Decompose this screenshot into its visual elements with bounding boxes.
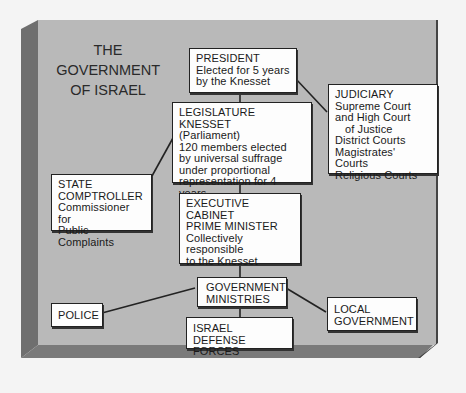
- president-box: PRESIDENT Elected for 5 years by the Kne…: [189, 48, 297, 93]
- legislature-box: LEGISLATURE KNESSET (Parliament) 120 mem…: [172, 102, 312, 183]
- police-box: POLICE: [51, 303, 103, 327]
- title-line: GOVERNMENT: [56, 62, 160, 78]
- box-text: Commissioner for: [58, 202, 145, 225]
- title-line: OF ISRAEL: [70, 82, 146, 98]
- box-heading: MINISTRIES: [206, 294, 280, 306]
- title-line: THE: [94, 42, 123, 58]
- box-heading: POLICE: [58, 310, 96, 322]
- executive-box: EXECUTIVE CABINET PRIME MINISTER Collect…: [179, 193, 301, 264]
- idf-box: ISRAEL DEFENSE FORCES: [186, 317, 293, 349]
- box-text: Magistrates' Courts: [335, 147, 431, 170]
- box-text: District Courts: [335, 135, 431, 147]
- comptroller-box: STATE COMPTROLLER Commissioner for Publi…: [51, 174, 152, 231]
- box-heading: JUDICIARY: [335, 89, 431, 101]
- box-heading: LOCAL: [334, 304, 410, 316]
- box-heading: STATE: [58, 179, 145, 191]
- local-government-box: LOCAL GOVERNMENT: [327, 297, 417, 331]
- box-heading: ISRAEL: [193, 323, 286, 335]
- box-text: by universal suffrage: [179, 153, 305, 165]
- box-text: (Parliament): [179, 130, 305, 142]
- box-heading: PRESIDENT: [196, 53, 290, 65]
- box-heading: LEGISLATURE KNESSET: [179, 107, 305, 130]
- box-text: Religious Courts: [335, 170, 431, 182]
- box-heading: GOVERNMENT: [206, 282, 280, 294]
- box-heading: EXECUTIVE CABINET: [186, 198, 294, 221]
- box-text: and High Court: [335, 112, 431, 124]
- diagram-title: THE GOVERNMENT OF ISRAEL: [52, 40, 164, 100]
- box-heading: DEFENSE FORCES: [193, 335, 286, 358]
- box-text: Public Complaints: [58, 225, 145, 248]
- panel-edge: [418, 20, 438, 358]
- box-heading: GOVERNMENT: [334, 316, 410, 328]
- box-heading: PRIME MINISTER: [186, 221, 294, 233]
- panel-left-side: [21, 20, 38, 358]
- box-text: responsible: [186, 244, 294, 256]
- box-text: by the Knesset: [196, 76, 290, 88]
- ministries-box: GOVERNMENT MINISTRIES: [197, 277, 287, 307]
- judiciary-box: JUDICIARY Supreme Court and High Court o…: [328, 84, 438, 174]
- box-text: to the Knesset: [186, 256, 294, 268]
